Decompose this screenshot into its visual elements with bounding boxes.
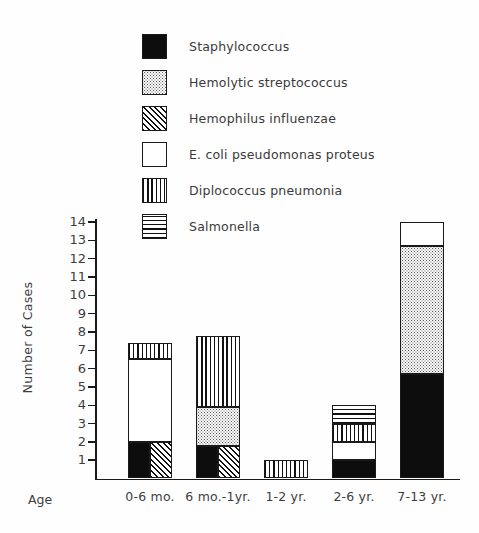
bar-segment — [332, 442, 376, 460]
bar-segment — [196, 336, 240, 407]
bar-segment — [218, 446, 240, 479]
bar-group — [0, 0, 479, 479]
bar-segment — [332, 460, 376, 478]
bar-segment — [400, 222, 444, 246]
x-tick-label: 0-6 mo. — [125, 489, 174, 504]
x-tick-label: 2-6 yr. — [333, 489, 374, 504]
plot-area: Number of Cases 1234567891011121314 Age … — [0, 0, 479, 533]
x-tick-label: 7-13 yr. — [397, 489, 446, 504]
x-tick-label: 6 mo.-1yr. — [185, 489, 250, 504]
bar-segment — [128, 359, 172, 441]
bar-segment — [400, 246, 444, 374]
x-tick-label: 1-2 yr. — [265, 489, 306, 504]
bar-segment — [332, 424, 376, 442]
chart-figure: Staphylococcus Hemolytic streptococcus H… — [0, 0, 479, 533]
x-tick-label-group: 0-6 mo.6 mo.-1yr.1-2 yr.2-6 yr.7-13 yr. — [0, 489, 479, 513]
bar-segment — [332, 405, 376, 423]
bar-segment — [150, 442, 172, 479]
bar-segment — [128, 343, 172, 359]
bar-segment — [128, 442, 150, 479]
bar-segment — [264, 460, 308, 478]
bar-segment — [196, 446, 218, 479]
bar-segment — [196, 407, 240, 445]
bar-segment — [400, 374, 444, 478]
